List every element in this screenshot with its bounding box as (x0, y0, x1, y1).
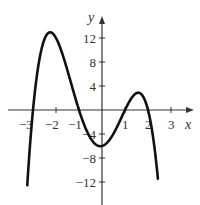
x-tick-label: −1 (68, 117, 82, 132)
function-graph: −3 −2 −1 1 2 3 x 12 8 4 −4 −8 −12 y (0, 0, 200, 205)
x-axis-label: x (184, 117, 192, 132)
x-tick-label: −2 (45, 117, 59, 132)
y-tick-label: 4 (90, 79, 97, 94)
x-tick-label: 1 (122, 117, 129, 132)
y-tick-label: 12 (83, 31, 96, 46)
y-axis-label: y (86, 10, 95, 25)
y-tick-label: 8 (90, 55, 97, 70)
y-tick-label: −12 (76, 175, 96, 190)
y-axis-arrow-icon (99, 16, 105, 24)
y-tick-label: −8 (82, 151, 96, 166)
x-axis-arrow-icon (186, 107, 194, 113)
x-tick-label: 3 (168, 117, 175, 132)
